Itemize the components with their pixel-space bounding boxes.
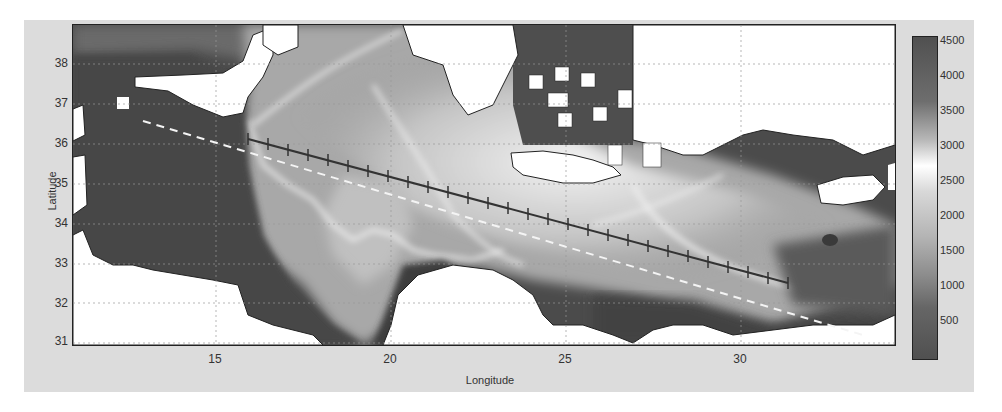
colorbar-label-1500: 1500 bbox=[940, 244, 964, 256]
colorbar-label-500: 500 bbox=[940, 314, 958, 326]
ytick-32: 32 bbox=[42, 296, 68, 310]
ytick-37: 37 bbox=[42, 96, 68, 110]
colorbar-label-4500: 4500 bbox=[940, 34, 964, 46]
deep-spot bbox=[822, 234, 838, 246]
xtick-15: 15 bbox=[200, 352, 230, 366]
bathymetry-map bbox=[73, 25, 895, 345]
land-tunisia-east bbox=[73, 155, 87, 215]
aegean-island bbox=[548, 93, 568, 107]
land-tunisia-north bbox=[73, 105, 85, 141]
colorbar-label-2000: 2000 bbox=[940, 209, 964, 221]
ytick-31: 31 bbox=[42, 334, 68, 348]
y-axis-title: Latitude bbox=[46, 161, 58, 221]
aegean-island bbox=[593, 107, 607, 121]
ytick-33: 33 bbox=[42, 256, 68, 270]
aegean-island bbox=[608, 145, 622, 165]
land-levant bbox=[888, 163, 895, 190]
ytick-36: 36 bbox=[42, 136, 68, 150]
colorbar-label-4000: 4000 bbox=[940, 69, 964, 81]
aegean-island bbox=[529, 75, 543, 89]
colorbar-label-1000: 1000 bbox=[940, 279, 964, 291]
map-plot-area bbox=[72, 24, 896, 346]
aegean-island bbox=[581, 73, 595, 87]
xtick-20: 20 bbox=[375, 352, 405, 366]
colorbar-label-2500: 2500 bbox=[940, 174, 964, 186]
land-malta bbox=[117, 97, 129, 109]
colorbar-label-3000: 3000 bbox=[940, 139, 964, 151]
ytick-38: 38 bbox=[42, 56, 68, 70]
land-rhodes bbox=[643, 143, 661, 167]
colorbar bbox=[912, 36, 938, 360]
aegean-island bbox=[555, 67, 569, 81]
aegean-island bbox=[618, 90, 632, 108]
xtick-30: 30 bbox=[725, 352, 755, 366]
colorbar-label-3500: 3500 bbox=[940, 104, 964, 116]
x-axis-title: Longitude bbox=[450, 374, 530, 386]
aegean-island bbox=[558, 113, 572, 127]
xtick-25: 25 bbox=[550, 352, 580, 366]
